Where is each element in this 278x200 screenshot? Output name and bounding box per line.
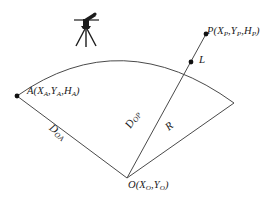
label-a-h: H <box>64 85 72 96</box>
point-marker-l <box>189 60 194 65</box>
label-p-h: H <box>244 25 252 36</box>
diagram-canvas: P(XP,YP,HP) A(XA,YA,HA) O(XO,YO) L R DOA… <box>0 0 278 200</box>
label-o-close: ) <box>165 179 169 190</box>
label-a-close: ) <box>76 85 80 96</box>
radius-line-oa <box>17 96 127 178</box>
radial-line-op <box>127 34 206 178</box>
radius-line-r <box>127 103 234 178</box>
label-o-base: O <box>128 179 136 190</box>
label-segment-l: L <box>199 54 205 65</box>
label-point-o: O(XO,YO) <box>128 180 169 192</box>
label-point-a: A(XA,YA,HA) <box>27 86 80 98</box>
label-p-close: ) <box>256 25 260 36</box>
label-point-p: P(XP,YP,HP) <box>207 26 260 38</box>
total-station-icon <box>74 12 99 47</box>
point-marker-a <box>15 94 20 99</box>
